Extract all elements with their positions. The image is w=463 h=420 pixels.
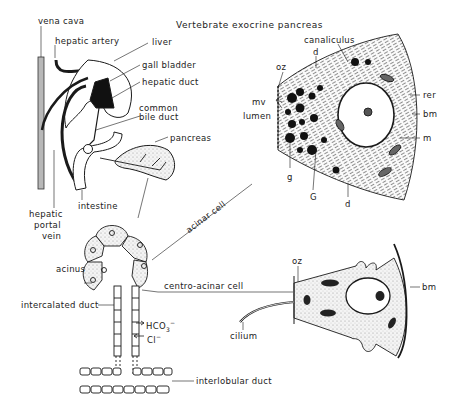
label-mitochondrion: m <box>423 133 432 143</box>
label-hepatic-artery: hepatic artery <box>55 36 119 46</box>
figure-title: Vertebrate exocrine pancreas <box>176 20 323 30</box>
bicarbonate-text: HCO <box>146 321 166 331</box>
bicarbonate-charge: − <box>170 319 175 326</box>
diagram-canvas <box>0 0 463 420</box>
label-microvilli: mv <box>252 97 266 107</box>
label-golgi: G <box>310 192 317 202</box>
label-cilium: cilium <box>230 331 257 341</box>
chloride-charge: − <box>156 333 161 340</box>
label-acinus: acinus <box>56 264 85 274</box>
label-vena-cava: vena cava <box>38 16 84 26</box>
chloride-text: Cl <box>147 335 156 345</box>
label-centro-acinar-cell: centro-acinar cell <box>164 281 243 291</box>
label-rough-er: rer <box>423 90 436 100</box>
centroacinar-cell-panel <box>240 244 420 358</box>
acinar-cell-panel <box>276 34 420 200</box>
label-desmosome-top: d <box>313 47 319 57</box>
label-intestine: intestine <box>78 201 118 211</box>
label-common-bile-duct-line2: bile duct <box>139 112 179 122</box>
common-bile-duct-shape <box>84 108 99 150</box>
label-gall-bladder: gall bladder <box>142 60 196 70</box>
organ-panel <box>38 26 175 218</box>
label-lumen: lumen <box>243 111 271 121</box>
label-liver: liver <box>152 37 172 47</box>
label-hepatic-portal-vein-line1: hepatic <box>29 209 63 219</box>
label-intercalated-duct: intercalated duct <box>21 300 99 310</box>
label-zymogen-granule: g <box>287 172 293 182</box>
label-hepatic-portal-vein-line3: vein <box>42 231 61 241</box>
label-chloride: Cl− <box>147 332 161 345</box>
label-centroacinar-bm: bm <box>422 282 436 292</box>
label-desmosome-bottom: d <box>345 199 351 209</box>
label-interlobular-duct: interlobular duct <box>196 376 272 386</box>
cilium <box>240 302 294 322</box>
label-hepatic-portal-vein-line2: portal <box>34 220 61 230</box>
bicarbonate-subscript: 3 <box>166 326 170 333</box>
label-basement-membrane: bm <box>423 109 437 119</box>
label-pancreas: pancreas <box>170 133 211 143</box>
label-occluding-zone: oz <box>276 62 286 72</box>
label-canaliculus: canaliculus <box>304 35 355 45</box>
label-hepatic-duct: hepatic duct <box>142 77 199 87</box>
label-centroacinar-oz: oz <box>292 256 302 266</box>
